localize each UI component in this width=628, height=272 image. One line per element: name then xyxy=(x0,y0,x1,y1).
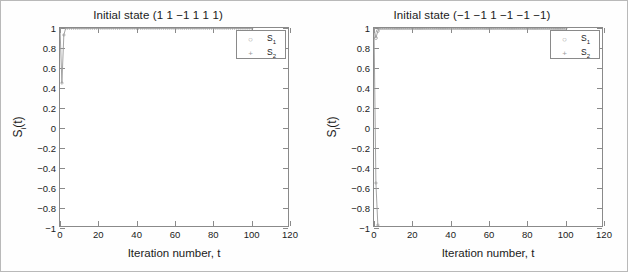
series-markers-2-right xyxy=(374,28,567,226)
y-tick-label-left: −0.8 xyxy=(37,203,56,214)
series-markers-2-left xyxy=(60,28,253,85)
y-tick-label-right: −0.8 xyxy=(351,203,370,214)
figure-container: Initial state (1 1 −1 1 1 1) Si(t) Itera… xyxy=(0,0,628,272)
y-tick-label-left: 1 xyxy=(51,23,56,34)
x-tick-label-left: 60 xyxy=(170,229,181,240)
x-tick-label-left: 40 xyxy=(131,229,142,240)
y-tick-label-right: −0.2 xyxy=(351,143,370,154)
y-tick-label-left: −0.2 xyxy=(37,143,56,154)
y-tick-label-left: 0.4 xyxy=(43,83,56,94)
y-tick-label-right: −1 xyxy=(359,223,370,234)
legend-entry-s1: ○ S1 xyxy=(551,32,599,46)
plus-marker-icon: + xyxy=(246,49,255,58)
y-tick-label-left: 0.2 xyxy=(43,103,56,114)
y-tick-label-right: 0.2 xyxy=(357,103,370,114)
y-tick-label-right: 0.8 xyxy=(357,43,370,54)
series-markers-1-right xyxy=(374,28,567,40)
chart-panel-right: Initial state (−1 −1 1 −1 −1 −1) Si(t) I… xyxy=(315,1,628,272)
x-tick-label-right: 60 xyxy=(484,229,495,240)
y-tick-label-right: 1 xyxy=(365,23,370,34)
panel-title-right: Initial state (−1 −1 1 −1 −1 −1) xyxy=(315,9,628,21)
x-tick-left xyxy=(290,221,291,226)
y-tick-label-left: 0.6 xyxy=(43,63,56,74)
legend-label-s1: S1 xyxy=(267,33,276,45)
x-tick-label-left: 20 xyxy=(93,229,104,240)
x-tick-left xyxy=(290,28,291,33)
x-tick-label-right: 40 xyxy=(445,229,456,240)
plus-marker-icon: + xyxy=(560,49,569,58)
y-tick-label-left: −1 xyxy=(45,223,56,234)
x-tick-label-left: 0 xyxy=(57,229,62,240)
x-tick-right xyxy=(604,28,605,33)
legend-left: ○ S1 + S2 xyxy=(236,30,286,59)
y-tick-label-right: −0.6 xyxy=(351,183,370,194)
y-tick-label-left: −0.4 xyxy=(37,163,56,174)
y-tick-label-right: −0.4 xyxy=(351,163,370,174)
y-axis-title-left: Si(t) xyxy=(11,116,27,137)
y-tick-label-left: 0 xyxy=(51,123,56,134)
x-tick-label-right: 120 xyxy=(596,229,612,240)
plot-area-right: 10.80.60.40.20−0.2−0.4−0.6−0.8−102040608… xyxy=(373,27,603,227)
x-tick-label-right: 0 xyxy=(371,229,376,240)
chart-panel-left: Initial state (1 1 −1 1 1 1) Si(t) Itera… xyxy=(1,1,315,272)
legend-label-s2: S2 xyxy=(581,47,590,59)
y-tick-label-left: −0.6 xyxy=(37,183,56,194)
x-axis-title-right: Iteration number, t xyxy=(373,247,603,259)
x-tick-right xyxy=(604,221,605,226)
x-tick-label-right: 80 xyxy=(522,229,533,240)
panel-title-left: Initial state (1 1 −1 1 1 1) xyxy=(1,9,315,21)
y-tick-label-right: 0 xyxy=(365,123,370,134)
circle-marker-icon: ○ xyxy=(560,35,569,44)
x-tick-label-left: 100 xyxy=(244,229,260,240)
circle-marker-icon: ○ xyxy=(246,35,255,44)
x-tick-label-left: 120 xyxy=(282,229,298,240)
legend-right: ○ S1 + S2 xyxy=(550,30,600,59)
series-line-2-left xyxy=(60,28,252,83)
legend-label-s2: S2 xyxy=(267,47,276,59)
legend-label-s1: S1 xyxy=(581,33,590,45)
legend-entry-s2: + S2 xyxy=(237,46,285,60)
y-tick-label-right: 0.6 xyxy=(357,63,370,74)
legend-entry-s2: + S2 xyxy=(551,46,599,60)
y-tick-label-right: 0.4 xyxy=(357,83,370,94)
x-axis-title-left: Iteration number, t xyxy=(59,247,289,259)
x-tick-label-right: 20 xyxy=(407,229,418,240)
y-axis-title-right: Si(t) xyxy=(325,116,341,137)
plot-area-left: 10.80.60.40.20−0.2−0.4−0.6−0.8−102040608… xyxy=(59,27,289,227)
series-line-2-right xyxy=(374,28,566,226)
legend-entry-s1: ○ S1 xyxy=(237,32,285,46)
x-tick-label-right: 100 xyxy=(558,229,574,240)
x-tick-label-left: 80 xyxy=(208,229,219,240)
y-tick-label-left: 0.8 xyxy=(43,43,56,54)
